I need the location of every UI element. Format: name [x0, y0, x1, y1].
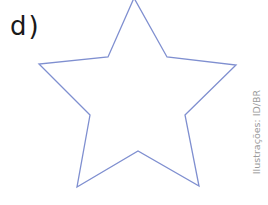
star-figure	[0, 0, 268, 205]
star-outline	[39, 0, 236, 187]
illustration-credit: Ilustrações: ID/BR	[251, 90, 262, 174]
exercise-item: d) Ilustrações: ID/BR	[0, 0, 268, 205]
